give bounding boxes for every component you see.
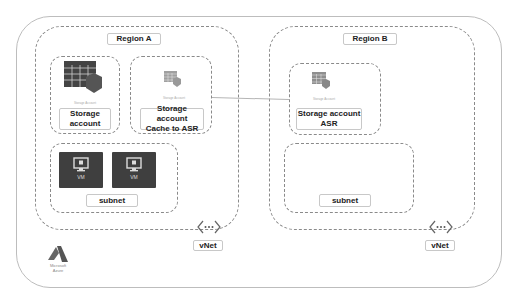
icon-caption: Storage Account [306,97,342,101]
vnet-b-label: vNet [425,240,455,251]
storage-account-label: Storage account [59,108,111,130]
azure-logo-caption: Microsoft Azure [40,263,76,273]
region-a-label: Region A [107,33,161,45]
vm-tile: VM [59,152,103,188]
storage-account-icon [64,61,106,101]
azure-logo-icon [48,246,68,262]
subnet-b-label: subnet [319,194,371,207]
storage-account-icon [164,71,184,91]
vm-tile: VM [112,152,156,188]
vnet-icon [429,220,453,234]
vnet-a-label: vNet [193,240,223,251]
vm-icon [73,157,89,173]
subnet-a-label: subnet [86,194,138,207]
vm-label: VM [112,174,156,180]
icon-caption: Storage Account [62,101,108,105]
storage-account-icon [312,72,334,94]
storage-asr-label: Storage account ASR [296,108,362,130]
storage-cache-label: Storage account Cache to ASR [140,108,204,130]
icon-caption: Storage Account [156,96,192,100]
region-b-label: Region B [343,33,397,45]
vm-label: VM [59,174,103,180]
vnet-icon [197,220,221,234]
vm-icon [126,157,142,173]
